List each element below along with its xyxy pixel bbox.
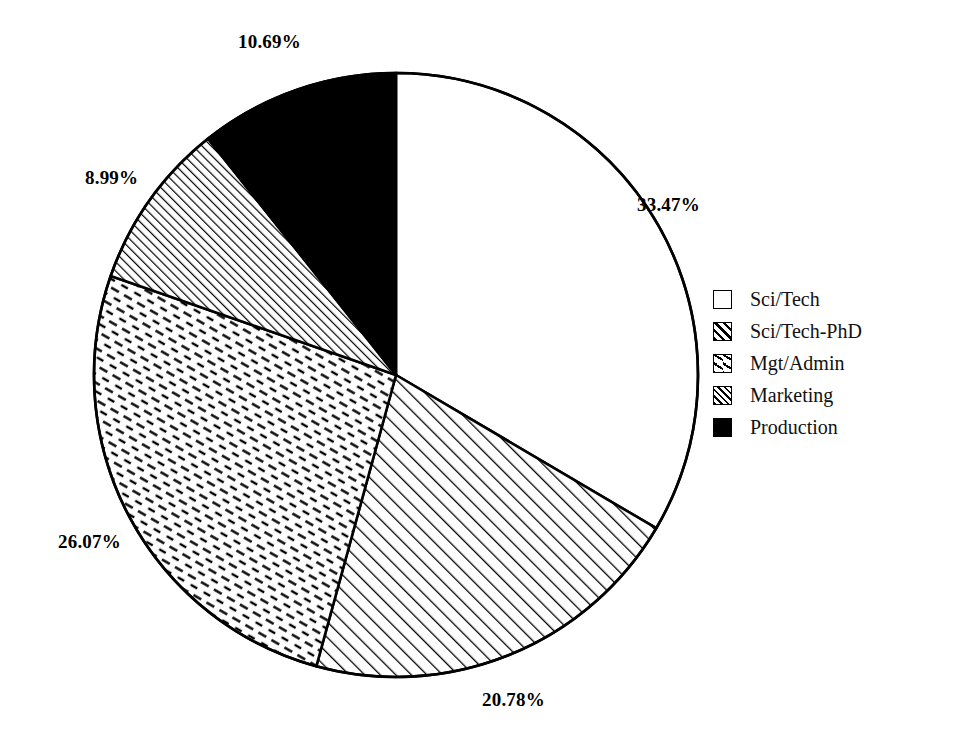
solid-black-swatch-icon [713, 418, 732, 437]
legend-item-label: Sci/Tech-PhD [750, 321, 862, 341]
legend: Sci/TechSci/Tech-PhDMgt/AdminMarketingPr… [713, 283, 928, 443]
slice-label-marketing: 8.99% [85, 168, 138, 187]
pie-chart-figure: 10.69% 33.47% 20.78% 26.07% 8.99% Sci/Te… [0, 0, 958, 744]
solid-white-swatch-icon [713, 290, 732, 309]
legend-item[interactable]: Production [713, 411, 928, 443]
slice-label-sci-tech-phd: 20.78% [482, 690, 545, 709]
diagonal-hatch-swatch-icon [713, 322, 732, 341]
slice-label-mgt-admin: 26.07% [58, 532, 121, 551]
legend-item-label: Production [750, 417, 838, 437]
slice-label-production: 10.69% [238, 32, 301, 51]
dashed-diagonal-swatch-icon [713, 354, 732, 373]
dense-diagonal-swatch-icon [713, 386, 732, 405]
legend-item[interactable]: Sci/Tech-PhD [713, 315, 928, 347]
pie-slices [94, 73, 698, 677]
legend-item-label: Sci/Tech [750, 289, 820, 309]
legend-item[interactable]: Sci/Tech [713, 283, 928, 315]
legend-item-label: Mgt/Admin [750, 353, 844, 373]
legend-item[interactable]: Marketing [713, 379, 928, 411]
legend-item[interactable]: Mgt/Admin [713, 347, 928, 379]
legend-item-label: Marketing [750, 385, 833, 405]
slice-label-sci-tech: 33.47% [637, 195, 700, 214]
